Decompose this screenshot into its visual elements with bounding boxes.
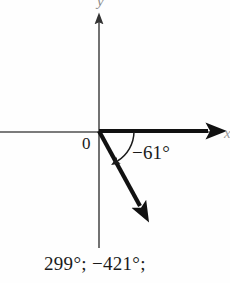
- axis-label-x: x: [224, 126, 230, 141]
- coterminal-angles-label: 299°; −421°;: [44, 254, 146, 273]
- angle-diagram-figure: y x 0 −61° 299°; −421°;: [0, 0, 230, 283]
- origin-label: 0: [82, 135, 91, 152]
- angle-measure-label: −61°: [132, 143, 170, 162]
- diagram-canvas: [0, 0, 230, 283]
- axis-label-y: y: [97, 0, 104, 9]
